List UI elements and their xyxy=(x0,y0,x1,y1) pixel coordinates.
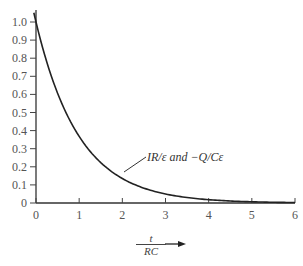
y-tick-label: 0.5 xyxy=(12,106,27,120)
y-tick-label: 0.2 xyxy=(12,160,27,174)
decay-chart: 00.10.20.30.40.50.60.70.80.91.0 0123456 … xyxy=(0,0,303,266)
y-tick-label: 0.7 xyxy=(12,69,27,83)
x-axis-label: t RC xyxy=(136,232,166,258)
y-tick-label: 0.9 xyxy=(12,33,27,47)
y-ticks: 00.10.20.30.40.50.60.70.80.91.0 xyxy=(12,15,36,210)
x-tick-label: 5 xyxy=(249,208,255,222)
x-label-denominator: RC xyxy=(136,245,166,258)
x-tick-label: 4 xyxy=(206,208,212,222)
x-tick-label: 3 xyxy=(163,208,169,222)
y-tick-label: 0.1 xyxy=(12,178,27,192)
y-tick-label: 0.3 xyxy=(12,142,27,156)
axes xyxy=(36,10,295,203)
y-tick-label: 1.0 xyxy=(12,15,27,29)
annotation-leader xyxy=(124,157,146,172)
y-tick-label: 0.8 xyxy=(12,51,27,65)
x-label-numerator: t xyxy=(136,232,166,245)
x-arrow-icon xyxy=(165,241,186,247)
x-tick-label: 0 xyxy=(33,208,39,222)
y-tick-label: 0 xyxy=(21,196,27,210)
curve-annotation: IR/ε and −Q/Cε xyxy=(146,150,223,164)
x-tick-label: 6 xyxy=(292,208,298,222)
decay-curve xyxy=(34,13,295,203)
x-tick-label: 1 xyxy=(76,208,82,222)
y-tick-label: 0.4 xyxy=(12,124,27,138)
y-tick-label: 0.6 xyxy=(12,87,27,101)
x-tick-label: 2 xyxy=(119,208,125,222)
